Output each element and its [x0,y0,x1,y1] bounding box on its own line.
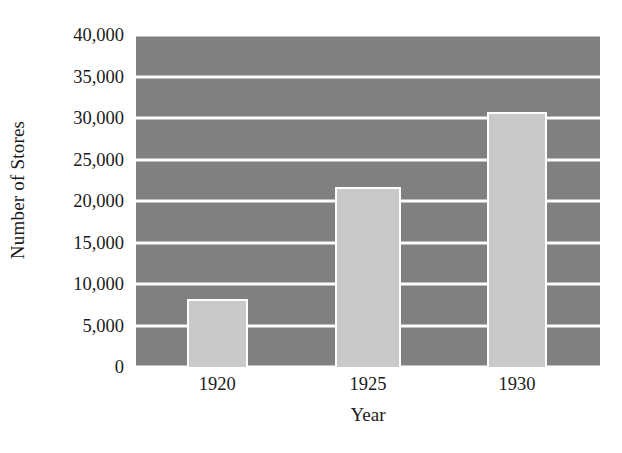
y-tick-label: 20,000 [73,191,124,212]
x-tick-label: 1920 [199,374,236,395]
bar-1920 [187,299,248,367]
bar-chart-figure: Number of Stores 05,00010,00015,00020,00… [0,0,622,453]
x-axis-tick-labels: 192019251930 [136,374,600,402]
y-axis-title-label: Number of Stores [7,121,29,259]
plot-area [136,35,600,367]
y-tick-label: 5,000 [82,315,124,336]
gridline [136,35,600,37]
y-tick-label: 0 [115,357,124,378]
y-tick-label: 25,000 [73,149,124,170]
y-tick-label: 40,000 [73,25,124,46]
y-tick-label: 10,000 [73,274,124,295]
bar-1930 [487,112,547,367]
x-tick-label: 1925 [350,374,387,395]
x-axis-title-label: Year [350,404,385,425]
x-axis-title: Year [136,404,600,426]
x-tick-label: 1930 [498,374,535,395]
y-axis-tick-labels: 05,00010,00015,00020,00025,00030,00035,0… [36,35,130,367]
bar-1925 [335,187,401,367]
y-axis-title: Number of Stores [0,0,36,380]
y-tick-label: 35,000 [73,66,124,87]
y-tick-label: 15,000 [73,232,124,253]
gridline [136,75,600,78]
y-tick-label: 30,000 [73,108,124,129]
